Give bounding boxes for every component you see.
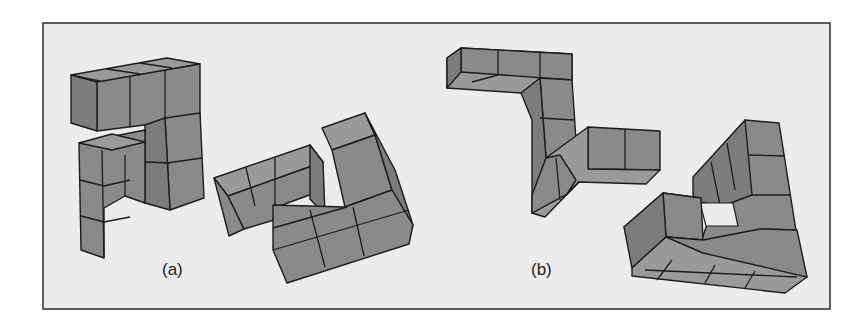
figure-canvas <box>0 0 864 324</box>
panel-b-label: (b) <box>531 260 552 280</box>
panel-a-label: (a) <box>162 260 183 280</box>
